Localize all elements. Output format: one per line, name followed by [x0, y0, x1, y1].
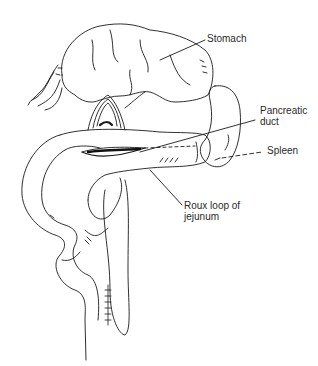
label-pancreatic-duct-1: Pancreatic	[260, 105, 307, 116]
roux-loop-jejunum	[60, 129, 210, 200]
omentum-fringe	[28, 65, 62, 110]
label-roux-loop-1: Roux loop of	[184, 200, 240, 211]
leader-lines	[140, 40, 262, 205]
stomach-leader	[160, 40, 205, 60]
label-spleen: Spleen	[267, 145, 298, 156]
illustration-canvas: Stomach Pancreatic duct Spleen Roux loop…	[0, 0, 318, 366]
pancreatic-tunnel	[88, 92, 145, 130]
stomach-outline	[56, 24, 213, 102]
label-stomach: Stomach	[207, 33, 246, 44]
anatomy-drawing	[0, 0, 318, 366]
label-pancreatic-duct-2: duct	[260, 116, 279, 127]
intestine-loops	[22, 135, 129, 360]
spleen-outline	[200, 86, 240, 167]
spleen-leader	[222, 152, 262, 158]
label-roux-loop-2: jejunum	[184, 211, 219, 222]
roux-leader	[150, 170, 182, 205]
